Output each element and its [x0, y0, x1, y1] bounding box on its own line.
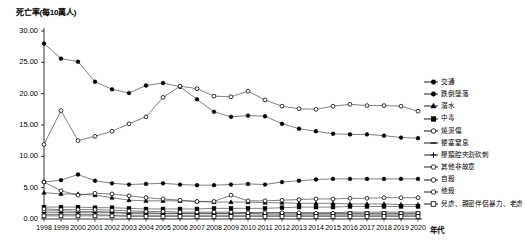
legend-marker-open-circle-icon: [424, 161, 441, 173]
series-0: [42, 42, 420, 140]
legend-label: 自殺: [441, 176, 455, 183]
legend-label: 跌倒墜落: [441, 91, 468, 98]
chart-legend: 交通跌倒墜落溺水中毒燒燙傷梗塞窒息壓頸腔夾割砍刺其他非故意自殺他殺兒虐、親密伴侶…: [424, 76, 526, 210]
line-chart: 死亡率(每10萬人) 0.005.0010.0015.0020.0025.003…: [0, 0, 526, 249]
legend-item[interactable]: 交通: [424, 76, 526, 88]
legend-item[interactable]: 燒燙傷: [424, 125, 526, 137]
legend-label: 溺水: [441, 103, 455, 110]
legend-label: 燒燙傷: [441, 128, 462, 135]
legend-label: 梗塞窒息: [441, 140, 468, 147]
legend-marker-filled-square-icon: [424, 113, 441, 125]
series-1: [42, 173, 420, 187]
legend-label: 他殺: [441, 188, 455, 195]
legend-marker-open-circle-icon: [424, 125, 441, 137]
legend-item[interactable]: 溺水: [424, 100, 526, 112]
legend-marker-filled-circle-icon: [424, 76, 441, 88]
legend-marker-plus-icon: [424, 149, 441, 161]
legend-marker-open-circle-icon: [424, 186, 441, 198]
legend-item[interactable]: 跌倒墜落: [424, 88, 526, 100]
legend-label: 交通: [441, 79, 455, 86]
legend-marker-open-square-icon: [424, 198, 441, 210]
legend-item[interactable]: 兒虐、親密伴侶暴力、老虐: [424, 198, 526, 210]
legend-item[interactable]: 他殺: [424, 186, 526, 198]
legend-label: 壓頸腔夾割砍刺: [441, 152, 489, 159]
legend-marker-filled-circle-icon: [424, 88, 441, 100]
legend-label: 其他非故意: [441, 164, 475, 171]
legend-item[interactable]: 壓頸腔夾割砍刺: [424, 149, 526, 161]
legend-item[interactable]: 其他非故意: [424, 161, 526, 173]
legend-marker-dash-icon: [424, 137, 441, 149]
legend-marker-open-circle-icon: [424, 174, 441, 186]
legend-label: 中毒: [441, 115, 455, 122]
legend-item[interactable]: 梗塞窒息: [424, 137, 526, 149]
legend-item[interactable]: 自殺: [424, 174, 526, 186]
legend-marker-filled-triangle-icon: [424, 100, 441, 112]
legend-label: 兒虐、親密伴侶暴力、老虐: [441, 201, 523, 208]
legend-item[interactable]: 中毒: [424, 113, 526, 125]
x-axis-title: 年代: [430, 224, 444, 235]
